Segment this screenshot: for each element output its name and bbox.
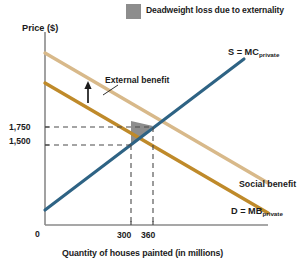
supply-curve-label-text: S = MC [228, 47, 259, 57]
demand-curve-label: D = MBprivate [231, 207, 283, 216]
externality-chart-figure: Deadweight loss due to externality Price… [0, 0, 306, 272]
demand-curve-label-text: D = MB [231, 206, 262, 216]
deadweight-legend-swatch [126, 4, 141, 19]
x-axis-title: Quantity of houses painted (in millions) [62, 249, 223, 258]
social-benefit-curve-label: Social benefit [239, 180, 296, 189]
supply-curve-label: S = MCprivate [228, 48, 279, 57]
y-axis-tick-label-1500: 1,500 [9, 137, 31, 146]
x-axis-tick-label-360: 360 [141, 231, 155, 240]
supply-curve-label-subscript: private [259, 51, 280, 58]
y-axis-tick-label-1750: 1,750 [9, 123, 31, 132]
deadweight-legend-label: Deadweight loss due to externality [146, 6, 284, 15]
social-benefit-curve [45, 53, 268, 183]
external-benefit-annotation: External benefit [105, 76, 169, 85]
external-benefit-arrow [84, 81, 91, 103]
axis-origin-label: 0 [35, 230, 40, 239]
demand-curve-label-subscript: private [262, 210, 283, 217]
private-demand-curve [45, 83, 268, 213]
y-axis-title: Price ($) [22, 24, 58, 33]
x-axis-tick-label-300: 300 [117, 231, 131, 240]
